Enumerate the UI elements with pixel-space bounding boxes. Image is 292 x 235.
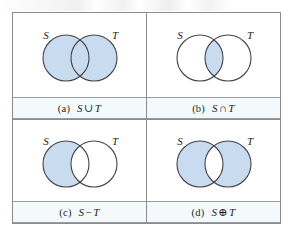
panel-b: S T (b) S∩T bbox=[146, 13, 280, 119]
expr-operator: ⊕ bbox=[217, 206, 229, 218]
panel-d-venn: S T bbox=[147, 120, 280, 201]
expr-right-operand: T bbox=[229, 206, 236, 218]
panel-c-venn: S T bbox=[13, 120, 146, 201]
venn-diagram-symmetric-difference: S T bbox=[151, 128, 277, 194]
venn-diagram-union: S T bbox=[21, 22, 139, 88]
venn-figure-frame: S T (a) S∪T S T (b) bbox=[12, 12, 281, 224]
scan-noise-band bbox=[0, 0, 292, 11]
panel-a-tag: (a) bbox=[58, 103, 70, 114]
panel-b-expression: S∩T bbox=[212, 102, 235, 114]
label-set-s: S bbox=[177, 29, 183, 41]
panel-c: S T (c) S−T bbox=[13, 119, 146, 223]
expr-operator: ∩ bbox=[218, 102, 228, 114]
label-set-t: T bbox=[111, 135, 118, 147]
label-set-s: S bbox=[177, 135, 183, 147]
left-only-region bbox=[21, 128, 139, 194]
venn-diagram-intersection: S T bbox=[151, 22, 277, 88]
expr-operator: − bbox=[85, 206, 94, 218]
expr-right-operand: T bbox=[95, 102, 102, 114]
panel-a-expression: S∪T bbox=[77, 102, 101, 115]
label-set-t: T bbox=[246, 135, 253, 147]
panel-a: S T (a) S∪T bbox=[13, 13, 146, 119]
panel-d-tag: (d) bbox=[192, 207, 205, 218]
expr-right-operand: T bbox=[93, 206, 100, 218]
label-set-t: T bbox=[111, 29, 118, 41]
panel-d-caption: (d) S⊕T bbox=[147, 201, 280, 223]
panel-d: S T (d) S⊕T bbox=[146, 119, 280, 223]
expr-operator: ∪ bbox=[83, 102, 95, 114]
panel-a-venn: S T bbox=[13, 13, 146, 97]
panel-b-tag: (b) bbox=[192, 103, 205, 114]
panel-c-caption: (c) S−T bbox=[13, 201, 146, 223]
panel-b-caption: (b) S∩T bbox=[147, 97, 280, 119]
label-set-t: T bbox=[246, 29, 253, 41]
panel-d-expression: S⊕T bbox=[211, 206, 235, 219]
expr-right-operand: T bbox=[228, 102, 235, 114]
label-set-s: S bbox=[43, 135, 49, 147]
panel-c-tag: (c) bbox=[59, 207, 71, 218]
symmetric-difference-region bbox=[151, 128, 277, 194]
panel-b-venn: S T bbox=[147, 13, 280, 97]
panel-c-expression: S−T bbox=[79, 206, 100, 218]
expr-left-operand: S bbox=[79, 206, 85, 218]
panel-a-caption: (a) S∪T bbox=[13, 97, 146, 119]
venn-diagram-difference: S T bbox=[21, 128, 139, 194]
label-set-s: S bbox=[43, 29, 49, 41]
